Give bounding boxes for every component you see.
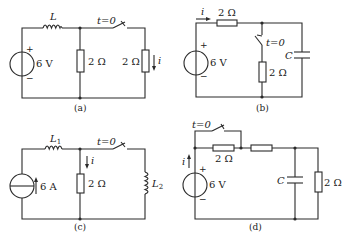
inductor-label: L bbox=[49, 11, 57, 22]
plus-sign: + bbox=[200, 40, 208, 50]
caption: (b) bbox=[256, 103, 269, 113]
resistor-icon bbox=[259, 62, 266, 82]
resistor-icon bbox=[213, 145, 234, 151]
circuit-b: 2 Ω i + − 6 V t=0 2 Ω C (b) bbox=[184, 6, 310, 113]
current-label: i bbox=[201, 6, 204, 17]
resistor-label: 2 Ω bbox=[122, 56, 140, 67]
inductor1-subscript: 1 bbox=[57, 138, 61, 146]
switch-label: t=0 bbox=[192, 119, 211, 130]
arrow-head-icon bbox=[85, 164, 89, 169]
arrow-head-icon bbox=[206, 17, 211, 21]
source-label: 6 V bbox=[210, 57, 228, 68]
resistor-icon bbox=[315, 172, 322, 192]
resistor-icon bbox=[251, 145, 272, 151]
current-label: i bbox=[158, 55, 161, 66]
resistor-label: 2 Ω bbox=[88, 56, 106, 67]
inductor-icon bbox=[43, 25, 62, 28]
switch-label: t=0 bbox=[266, 37, 285, 48]
plus-sign: + bbox=[199, 164, 207, 174]
resistor-icon bbox=[142, 50, 149, 72]
circuit-d: t=0 2 Ω + − 6 V i C 2 Ω (d) bbox=[182, 119, 342, 232]
inductor2-label: L2 bbox=[151, 178, 163, 191]
inductor-icon bbox=[145, 172, 148, 194]
node-dot bbox=[260, 95, 263, 98]
source-label: 6 A bbox=[40, 181, 58, 192]
node-dot bbox=[78, 96, 81, 99]
minus-sign: − bbox=[200, 71, 208, 81]
current-label: i bbox=[91, 155, 94, 166]
minus-sign: − bbox=[26, 73, 34, 83]
switch-icon bbox=[255, 36, 262, 45]
circuit-c: L1 6 A 2 Ω i t=0 L2 (c) bbox=[10, 133, 163, 232]
circuit-figure: L + − 6 V 2 Ω t=0 2 Ω i (a) 2 Ω i bbox=[0, 0, 348, 247]
resistor-label: 2 Ω bbox=[324, 177, 342, 188]
resistor-label: 2 Ω bbox=[269, 67, 287, 78]
inductor2-subscript: 2 bbox=[159, 183, 163, 191]
resistor-icon bbox=[217, 20, 237, 26]
resistor-label: 2 Ω bbox=[88, 178, 106, 189]
switch-tick bbox=[257, 35, 262, 36]
resistor-icon bbox=[77, 50, 84, 72]
switch-label: t=0 bbox=[97, 15, 116, 26]
arrow-head-icon bbox=[34, 177, 38, 182]
caption: (d) bbox=[249, 222, 262, 232]
source-label: 6 V bbox=[209, 179, 227, 190]
circuit-a: L + − 6 V 2 Ω t=0 2 Ω i (a) bbox=[10, 11, 161, 113]
resistor-icon bbox=[77, 174, 84, 193]
node-dot bbox=[193, 146, 196, 149]
switch-label: t=0 bbox=[97, 136, 116, 147]
inductor-icon bbox=[45, 146, 62, 149]
node-dot bbox=[78, 217, 81, 220]
source-label: 6 V bbox=[36, 58, 54, 69]
resistor-label: 2 Ω bbox=[215, 153, 233, 164]
node-dot bbox=[293, 146, 296, 149]
arrow-head-icon bbox=[187, 154, 191, 159]
inductor1-label: L1 bbox=[49, 133, 61, 146]
node-dot bbox=[239, 146, 242, 149]
node-dot bbox=[78, 147, 81, 150]
current-label: i bbox=[182, 156, 185, 167]
capacitor-label: C bbox=[277, 175, 285, 186]
caption: (a) bbox=[74, 103, 86, 113]
capacitor-label: C bbox=[285, 50, 293, 61]
plus-sign: + bbox=[26, 44, 34, 54]
node-dot bbox=[260, 21, 263, 24]
node-dot bbox=[293, 217, 296, 220]
node-dot bbox=[78, 26, 81, 29]
minus-sign: − bbox=[199, 194, 207, 204]
resistor-label: 2 Ω bbox=[218, 7, 236, 18]
arrow-head-icon bbox=[152, 66, 156, 71]
caption: (c) bbox=[74, 222, 86, 232]
